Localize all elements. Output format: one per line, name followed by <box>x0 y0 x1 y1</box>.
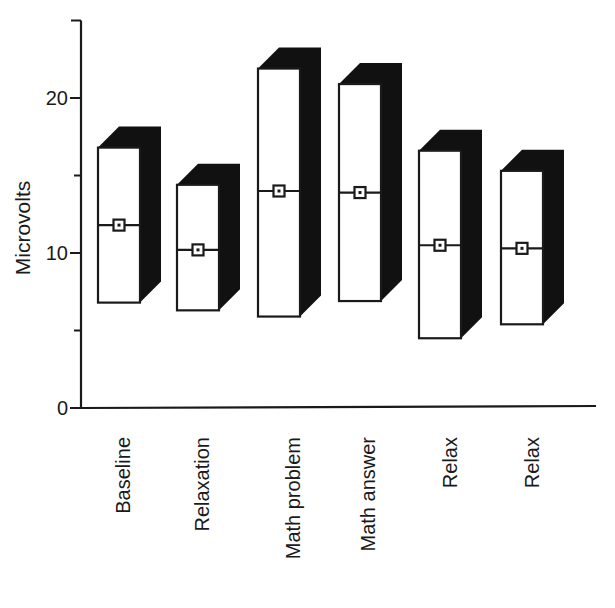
category-label: Relaxation <box>191 437 213 532</box>
category-label: Relax <box>439 437 461 488</box>
y-tick-label: 0 <box>57 397 68 419</box>
bars <box>98 48 564 339</box>
category-labels: BaselineRelaxationMath problemMath answe… <box>112 437 543 560</box>
range-bar <box>339 63 402 301</box>
mean-marker-dot <box>278 190 281 193</box>
category-label: Relax <box>521 437 543 488</box>
x-axis-line <box>80 406 596 408</box>
chart: 01020Microvolts BaselineRelaxationMath p… <box>0 0 615 608</box>
y-tick-label: 20 <box>46 87 68 109</box>
range-bar <box>258 48 321 317</box>
mean-marker-dot <box>521 247 524 250</box>
category-label: Math answer <box>357 437 379 552</box>
mean-marker-dot <box>439 244 442 247</box>
y-axis-title: Microvolts <box>11 181 34 276</box>
mean-marker-dot <box>359 191 362 194</box>
category-label: Math problem <box>282 437 304 559</box>
range-bar <box>98 127 161 303</box>
range-bar <box>177 164 240 311</box>
mean-marker-dot <box>118 224 121 227</box>
range-bar <box>501 150 564 324</box>
range-bar <box>419 130 482 339</box>
mean-marker-dot <box>197 248 200 251</box>
category-label: Baseline <box>112 437 134 514</box>
y-tick-label: 10 <box>46 242 68 264</box>
